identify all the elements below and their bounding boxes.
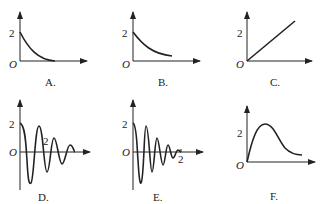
panel-caption: C. — [270, 76, 280, 88]
panel-c: 2 O C. — [236, 12, 312, 88]
peak-label: 2 — [43, 135, 49, 147]
y-tick-label: 2 — [9, 118, 15, 130]
origin-label: O — [236, 159, 244, 171]
panel-f: 2 O F. — [236, 106, 315, 202]
damped-oscillation-curve — [20, 123, 75, 183]
origin-label: O — [122, 146, 130, 158]
linear-line — [247, 21, 295, 61]
panel-caption: F. — [270, 190, 278, 202]
x-tick-label: 2 — [178, 153, 184, 165]
y-tick-label: 2 — [122, 118, 128, 130]
panel-caption: B. — [158, 76, 168, 88]
decay-curve — [133, 32, 172, 56]
panel-caption: D. — [38, 191, 49, 203]
damped-oscillation-curve — [133, 123, 181, 183]
origin-label: O — [122, 58, 130, 70]
panel-d: 2 2 O D. — [9, 100, 90, 203]
panel-a: 2 O A. — [9, 12, 87, 88]
panel-e: 2 O 2 E. — [122, 100, 203, 203]
panel-caption: E. — [153, 191, 163, 203]
figure-grid: 2 O A. 2 O B. 2 O C. 2 2 O D. 2 O 2 — [0, 0, 322, 204]
decay-curve — [20, 32, 55, 61]
origin-label: O — [236, 58, 244, 70]
y-tick-label: 2 — [122, 27, 128, 39]
panel-b: 2 O B. — [122, 12, 200, 88]
rise-decay-curve — [247, 124, 302, 162]
y-tick-label: 2 — [237, 127, 243, 139]
origin-label: O — [9, 146, 17, 158]
y-tick-label: 2 — [9, 27, 15, 39]
panel-caption: A. — [45, 76, 56, 88]
origin-label: O — [9, 58, 17, 70]
y-tick-label: 2 — [237, 27, 243, 39]
